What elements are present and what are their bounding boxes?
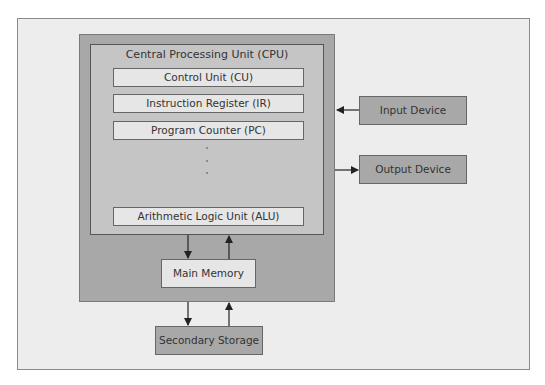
connection-arrows: [0, 0, 545, 385]
